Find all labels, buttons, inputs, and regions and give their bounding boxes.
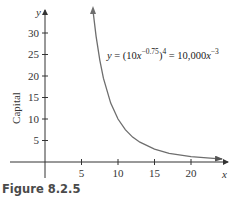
y-tick-labels: 5 10 15 20 25 30 (28, 27, 40, 147)
svg-text:20: 20 (28, 70, 40, 82)
svg-text:25: 25 (28, 48, 40, 60)
figure-caption: Figure 8.2.5 (2, 182, 80, 196)
svg-text:30: 30 (28, 27, 40, 39)
svg-text:20: 20 (186, 167, 198, 179)
y-axis-title: Capital (10, 92, 22, 124)
svg-text:15: 15 (149, 167, 161, 179)
x-tick-labels: 5 10 15 20 (79, 167, 197, 179)
y-axis-var-label: y (35, 6, 41, 18)
chart: 5 10 15 20 5 10 15 20 25 30 y x Capital … (0, 0, 239, 206)
svg-text:5: 5 (34, 134, 40, 146)
svg-text:10: 10 (113, 167, 125, 179)
equation-label: y = (10x−0.75)4 = 10,000x−3 (106, 47, 219, 62)
svg-text:5: 5 (79, 167, 85, 179)
svg-text:10: 10 (28, 113, 40, 125)
x-axis-var-label: x (221, 168, 227, 180)
svg-text:15: 15 (28, 91, 40, 103)
curve-series (93, 12, 222, 159)
curve-top-arrow-icon (90, 6, 96, 14)
